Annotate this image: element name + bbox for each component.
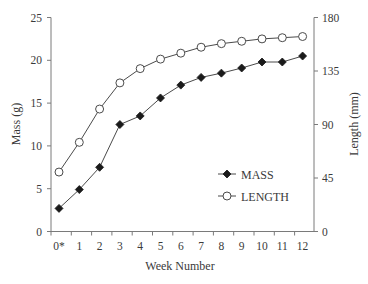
data-point-mass bbox=[197, 73, 205, 81]
y-tick-label-left: 10 bbox=[31, 140, 43, 152]
x-tick-label: 9 bbox=[239, 240, 245, 252]
y-tick-label-left: 20 bbox=[31, 54, 43, 66]
x-tick-label: 0* bbox=[53, 240, 65, 252]
x-tick-label: 12 bbox=[297, 240, 309, 252]
series-line-mass bbox=[59, 56, 303, 208]
series-layer bbox=[55, 33, 307, 213]
chart-container: 0510152025045901351800*123456789101112 M… bbox=[0, 0, 368, 284]
data-point-mass bbox=[299, 52, 307, 60]
x-tick-label: 4 bbox=[137, 240, 143, 252]
legend-item-length: LENGTH bbox=[218, 190, 289, 204]
x-axis-title: Week Number bbox=[145, 259, 214, 273]
y-tick-label-left: 15 bbox=[31, 97, 43, 109]
y-tick-label-left: 0 bbox=[36, 226, 42, 238]
data-point-mass bbox=[238, 64, 246, 72]
data-point-length bbox=[197, 43, 205, 51]
data-point-mass bbox=[278, 58, 286, 66]
axes: 0510152025045901351800*123456789101112 bbox=[31, 12, 340, 252]
data-point-length bbox=[238, 37, 246, 45]
data-point-length bbox=[75, 138, 83, 146]
y-tick-label-right: 135 bbox=[322, 65, 340, 77]
x-tick-label: 8 bbox=[219, 240, 225, 252]
legend: MASSLENGTH bbox=[218, 168, 289, 204]
data-point-length bbox=[157, 55, 165, 63]
legend-label-length: LENGTH bbox=[241, 190, 289, 204]
data-point-mass bbox=[116, 121, 124, 129]
legend-label-mass: MASS bbox=[241, 168, 274, 182]
data-point-length bbox=[116, 79, 124, 87]
legend-diamond-icon bbox=[223, 170, 231, 178]
y-axis-title-right: Length (mm) bbox=[347, 92, 361, 156]
x-tick-label: 5 bbox=[158, 240, 164, 252]
data-point-length bbox=[136, 65, 144, 73]
series-mass bbox=[55, 52, 307, 212]
data-point-length bbox=[278, 34, 286, 42]
data-point-mass bbox=[177, 81, 185, 89]
data-point-length bbox=[258, 35, 266, 43]
x-tick-label: 10 bbox=[256, 240, 268, 252]
y-tick-label-right: 45 bbox=[322, 172, 334, 184]
x-tick-label: 3 bbox=[117, 240, 123, 252]
data-point-mass bbox=[217, 69, 225, 77]
x-tick-label: 2 bbox=[97, 240, 103, 252]
data-point-length bbox=[177, 49, 185, 57]
series-length bbox=[55, 33, 307, 177]
x-tick-label: 7 bbox=[198, 240, 204, 252]
legend-circle-icon bbox=[223, 192, 231, 200]
y-tick-label-left: 25 bbox=[31, 12, 43, 24]
legend-item-mass: MASS bbox=[218, 168, 274, 182]
growth-chart: 0510152025045901351800*123456789101112 M… bbox=[0, 0, 368, 284]
x-tick-label: 1 bbox=[76, 240, 82, 252]
y-tick-label-left: 5 bbox=[36, 183, 42, 195]
y-tick-label-right: 180 bbox=[322, 12, 340, 24]
y-tick-label-right: 0 bbox=[322, 226, 328, 238]
data-point-length bbox=[217, 40, 225, 48]
data-point-length bbox=[55, 168, 63, 176]
y-axis-title-left: Mass (g) bbox=[9, 103, 23, 145]
y-tick-label-right: 90 bbox=[322, 119, 334, 131]
data-point-length bbox=[299, 33, 307, 41]
x-tick-label: 6 bbox=[178, 240, 184, 252]
data-point-mass bbox=[258, 58, 266, 66]
data-point-length bbox=[96, 105, 104, 113]
x-tick-label: 11 bbox=[277, 240, 288, 252]
